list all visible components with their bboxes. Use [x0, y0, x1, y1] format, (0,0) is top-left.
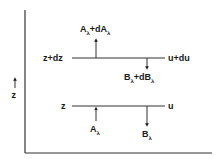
upper-upward-flux-label: Aλ+dAλ	[80, 24, 111, 36]
upper-left-label: z+dz	[43, 53, 63, 63]
lower-right-label: u	[168, 101, 174, 111]
lower-downward-flux-label: Bλ	[142, 129, 153, 141]
flux-diagram: z z+dz u+du Aλ+dAλ Bλ+dBλ z u Aλ Bλ	[0, 0, 220, 159]
lower-upward-flux-label: Aλ	[90, 124, 101, 136]
upper-downward-flux-label: Bλ+dBλ	[124, 72, 155, 84]
z-axis-label: z	[12, 90, 17, 100]
upper-right-label: u+du	[168, 53, 190, 63]
lower-left-label: z	[61, 101, 66, 111]
